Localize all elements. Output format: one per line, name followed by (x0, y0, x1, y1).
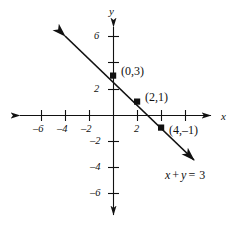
point-label-4-minus1: (4,–1) (169, 124, 198, 136)
x-tick-label-2: 2 (134, 124, 139, 135)
x-axis-label: x (221, 111, 226, 122)
x-tick-label--4: –4 (57, 124, 68, 135)
point-marker-4-minus1 (158, 125, 164, 131)
x-tick-label--6: –6 (33, 124, 44, 135)
point-label-0-3: (0,3) (121, 65, 144, 77)
y-tick-label--2: –2 (90, 136, 101, 147)
y-tick-label--4: –4 (90, 162, 101, 173)
x-tick-label--2: –2 (81, 124, 92, 135)
point-marker-2-1 (134, 99, 140, 105)
coordinate-plane-figure: x y –6 –4 –2 2 6 2 –2 –4 –6 (0,3) (2,1) … (0, 0, 237, 229)
point-label-2-1: (2,1) (145, 91, 168, 103)
equation-label: x+y=3 (165, 169, 207, 181)
equation-plus: + (172, 168, 179, 182)
graph-canvas (0, 0, 237, 229)
y-tick-label--6: –6 (90, 188, 101, 199)
equation-rhs: 3 (199, 168, 205, 182)
y-tick-label-2: 2 (94, 84, 99, 95)
y-tick-label-6: 6 (94, 31, 99, 42)
y-axis-label: y (109, 6, 114, 17)
equation-lhs-x: x (165, 168, 170, 182)
equation-lhs-y: y (181, 168, 186, 182)
point-marker-0-3 (110, 73, 116, 79)
plotted-line (65, 36, 194, 160)
equation-equals: = (188, 168, 195, 182)
